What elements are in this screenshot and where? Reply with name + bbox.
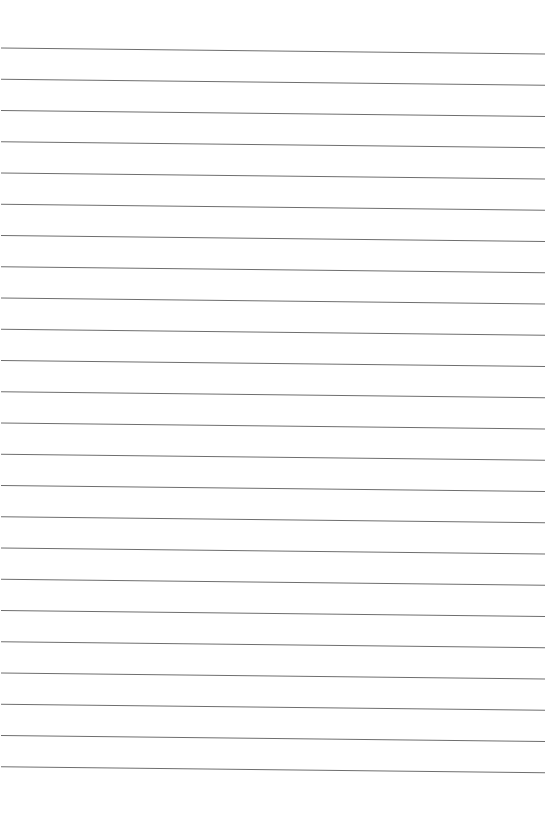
ruled-line <box>1 361 545 367</box>
ruled-line <box>1 486 545 492</box>
ruled-line <box>1 704 545 710</box>
ruled-line <box>1 48 545 54</box>
ruled-line <box>1 579 545 585</box>
lined-paper-page <box>0 0 546 834</box>
ruled-line <box>1 173 545 179</box>
ruled-line <box>1 79 545 85</box>
ruled-line <box>1 736 545 742</box>
ruled-line <box>1 142 545 148</box>
ruled-line <box>1 111 545 117</box>
ruled-line <box>1 454 545 460</box>
ruled-lines <box>0 0 546 834</box>
ruled-line <box>1 611 545 617</box>
ruled-line <box>1 548 545 554</box>
ruled-line <box>1 392 545 398</box>
ruled-line <box>1 517 545 523</box>
ruled-line <box>1 423 545 429</box>
ruled-line <box>1 767 545 773</box>
ruled-line <box>1 298 545 304</box>
ruled-line <box>1 236 545 242</box>
ruled-line <box>1 329 545 335</box>
ruled-line <box>1 673 545 679</box>
ruled-line <box>1 204 545 210</box>
ruled-line <box>1 642 545 648</box>
ruled-line <box>1 267 545 273</box>
